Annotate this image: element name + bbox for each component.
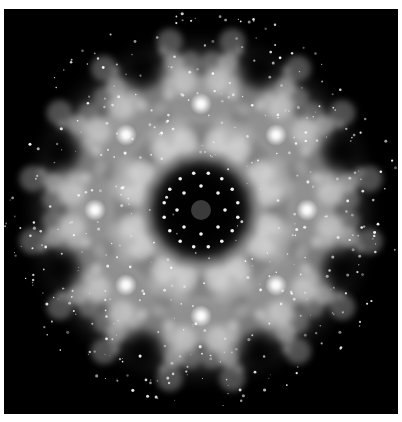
fractal-mandala	[4, 9, 398, 414]
fractal-image: Black-and-white radially symmetric fract…	[4, 9, 398, 414]
